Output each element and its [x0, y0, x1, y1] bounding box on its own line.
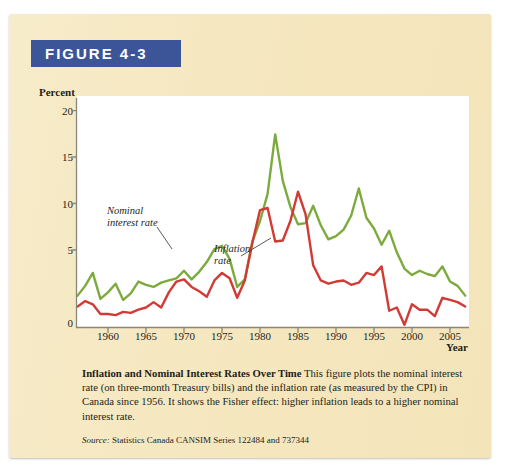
y-tick-label-15: 15: [47, 151, 73, 163]
figure-number-banner: FIGURE 4-3: [31, 40, 181, 67]
x-tick-label-1980: 1980: [240, 330, 280, 342]
x-tick-label-1990: 1990: [316, 330, 356, 342]
x-axis-title: Year: [446, 341, 468, 353]
annotation-inflation-rate: Inflation rate: [214, 243, 250, 267]
x-tick-label-1975: 1975: [202, 330, 242, 342]
figure-source: Source: Statistics Canada CANSIM Series …: [82, 435, 466, 445]
x-tick-label-2005: 2005: [430, 330, 470, 342]
y-axis-title: Percent: [39, 86, 75, 98]
x-tick-label-2000: 2000: [392, 330, 432, 342]
x-tick-label-1995: 1995: [354, 330, 394, 342]
source-label: Source:: [82, 435, 110, 445]
y-tick-label-20: 20: [47, 105, 73, 117]
annotation-nominal-interest-rate: Nominal interest rate: [107, 205, 158, 229]
x-tick-label-1985: 1985: [278, 330, 318, 342]
y-tick-label-0: 0: [47, 317, 73, 329]
x-tick-label-1970: 1970: [164, 330, 204, 342]
figure-panel: FIGURE 4-3 Percent Year 20 15 10 5 0 196…: [9, 14, 491, 458]
figure-caption: Inflation and Nominal Interest Rates Ove…: [82, 366, 466, 423]
y-tick-label-5: 5: [47, 244, 73, 256]
y-tick-label-10: 10: [47, 198, 73, 210]
source-text: Statistics Canada CANSIM Series 122484 a…: [110, 435, 309, 445]
x-tick-label-1960: 1960: [88, 330, 128, 342]
figure-number-label: FIGURE 4-3: [31, 45, 148, 62]
caption-headline: Inflation and Nominal Interest Rates Ove…: [82, 367, 302, 379]
x-tick-label-1965: 1965: [126, 330, 166, 342]
